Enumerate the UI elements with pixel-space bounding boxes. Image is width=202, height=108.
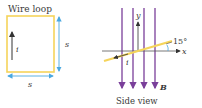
wire-loop-title: Wire loop	[8, 4, 52, 14]
wire-loop-panel: Wire loop i s s	[7, 4, 69, 89]
side-view-caption: Side view	[116, 96, 158, 106]
wire-loop-square	[7, 16, 54, 72]
angle-label: 15°	[173, 37, 187, 46]
current-label-right: i	[126, 58, 129, 67]
diagram-canvas: Wire loop i s s x y i 15° B Side view	[0, 0, 202, 108]
field-label: B	[159, 82, 167, 92]
side-length-label-bottom: s	[28, 80, 32, 89]
current-label-left: i	[16, 45, 19, 54]
x-axis-label: x	[182, 47, 187, 56]
side-view-panel: x y i 15° B Side view	[102, 8, 187, 106]
side-length-label-right: s	[65, 40, 69, 49]
y-axis-label: y	[135, 11, 141, 20]
angle-arc-icon	[167, 45, 168, 51]
